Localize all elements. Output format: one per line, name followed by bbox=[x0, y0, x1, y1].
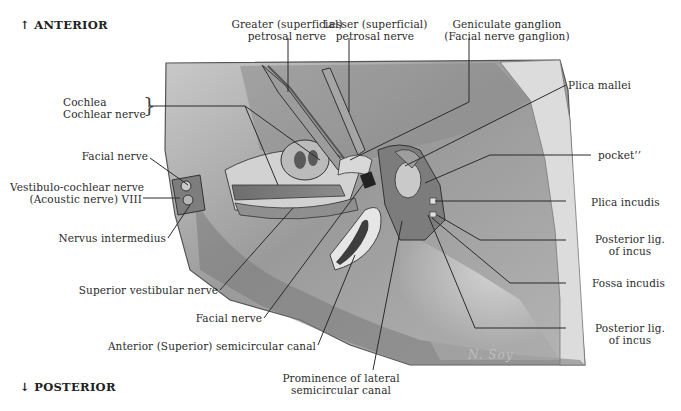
label-fossa-incudis: Fossa incudis bbox=[592, 277, 665, 289]
arrow-down-icon: ↓ bbox=[20, 380, 30, 394]
artist-signature: N. Soy bbox=[468, 348, 514, 362]
label-lateral-semicircular-canal: Prominence of lateral semicircular canal bbox=[273, 372, 409, 396]
orientation-anterior: ↑ ANTERIOR bbox=[20, 18, 108, 32]
label-nervus-intermedius: Nervus intermedius bbox=[40, 232, 166, 244]
label-geniculate-ganglion: Geniculate ganglion (Facial nerve gangli… bbox=[432, 18, 582, 42]
label-facial-nerve-lower: Facial nerve bbox=[160, 312, 262, 324]
arrow-up-icon: ↑ bbox=[20, 18, 30, 32]
anterior-label: ANTERIOR bbox=[34, 18, 108, 32]
label-vestibulocochlear-nerve: Vestibulo-cochlear nerve (Acoustic nerve… bbox=[10, 181, 142, 205]
label-plica-mallei: Plica mallei bbox=[568, 79, 631, 91]
label-superior-vestibular-nerve: Superior vestibular nerve bbox=[60, 284, 218, 296]
label-cochlea: Cochlea Cochlear nerve bbox=[63, 96, 146, 120]
label-plica-incudis: Plica incudis bbox=[591, 196, 660, 208]
label-posterior-ligament-incus-2: Posterior lig. of incus bbox=[588, 322, 672, 346]
label-lesser-petrosal-nerve: Lesser (superficial) petrosal nerve bbox=[320, 18, 430, 42]
brace-symbol: } bbox=[143, 94, 156, 116]
label-facial-nerve-upper: Facial nerve bbox=[40, 150, 148, 162]
label-anterior-semicircular-canal: Anterior (Superior) semicircular canal bbox=[90, 340, 316, 352]
label-pocket: pocket’’ bbox=[598, 149, 641, 161]
label-posterior-ligament-incus-1: Posterior lig. of incus bbox=[588, 233, 672, 257]
vestibulocochlear-stump bbox=[172, 175, 205, 215]
posterior-label: POSTERIOR bbox=[34, 380, 116, 394]
orientation-posterior: ↓ POSTERIOR bbox=[20, 380, 116, 394]
